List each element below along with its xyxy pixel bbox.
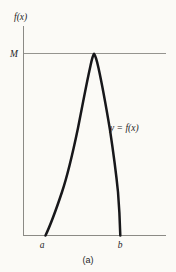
- function-curve: [46, 54, 121, 236]
- figure-caption: (a): [83, 255, 94, 265]
- y-axis-label: f(x): [14, 12, 27, 23]
- level-label-m: M: [9, 49, 19, 59]
- x-tick-label-b: b: [118, 240, 123, 250]
- plot-area: f(x) M y = f(x) a b (a): [0, 0, 176, 272]
- x-tick-label-a: a: [40, 240, 45, 250]
- figure-container: f(x) M y = f(x) a b (a): [0, 0, 176, 272]
- curve-label: y = f(x): [109, 123, 139, 134]
